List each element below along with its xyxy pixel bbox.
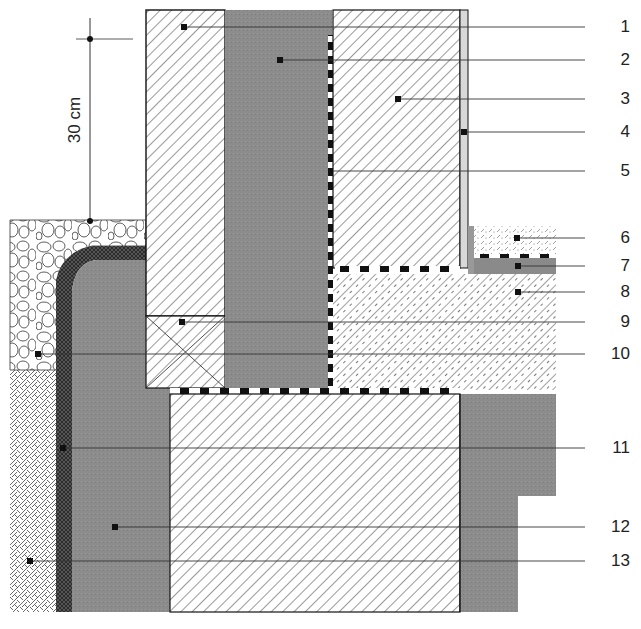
callout-10: 10: [590, 344, 630, 364]
concrete-core: [225, 10, 332, 388]
floor-membrane-lower: [170, 388, 460, 394]
callout-8: 8: [590, 282, 630, 302]
callout-5: 5: [590, 161, 630, 181]
callout-12: 12: [590, 517, 630, 537]
section-detail-drawing: 30 cm 1 2 3 4 5 6 7 8 9 10 11 12 13: [0, 0, 641, 629]
callout-1: 1: [590, 17, 630, 37]
callout-3: 3: [590, 89, 630, 109]
callout-7: 7: [590, 256, 630, 276]
floor-membrane-upper: [335, 266, 460, 272]
plaster-layer: [460, 10, 468, 268]
callout-11: 11: [590, 438, 630, 458]
callout-9: 9: [590, 312, 630, 332]
callout-2: 2: [590, 50, 630, 70]
foundation-wall: [170, 394, 460, 612]
floor-slab: [333, 274, 556, 390]
dimension-label: 30 cm: [65, 97, 85, 143]
callout-13: 13: [590, 551, 630, 571]
vertical-membrane: [328, 35, 333, 390]
callout-6: 6: [590, 228, 630, 248]
interior-wall-layer: [333, 10, 460, 268]
drawing-svg: [0, 0, 641, 629]
soil-region: [10, 370, 60, 612]
foundation-concrete-right: [460, 394, 556, 612]
exterior-wall-layer: [146, 10, 225, 316]
edge-strip: [468, 226, 474, 274]
callout-4: 4: [590, 122, 630, 142]
